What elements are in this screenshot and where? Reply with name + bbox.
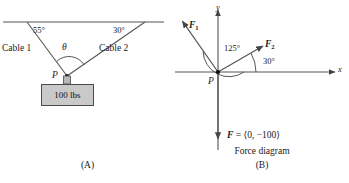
force-weight-value: = ⟨0, −100⟩ — [233, 130, 280, 140]
force-1-vector — [182, 21, 218, 72]
weight-label: 100 lbs — [54, 91, 80, 100]
origin-p-marker — [216, 70, 220, 74]
theta-label: θ — [62, 43, 67, 53]
force-1-subscript: 1 — [195, 24, 198, 31]
hanger-tab — [64, 76, 71, 84]
force-weight-label: F = ⟨0, −100⟩ — [227, 131, 280, 141]
cable-2-label: Cable 2 — [99, 44, 128, 54]
panel-b-caption: (B) — [175, 160, 349, 170]
figure-container: 55° 30° Cable 1 Cable 2 θ P 100 lbs (A) — [0, 0, 349, 183]
point-p-label: P — [52, 71, 58, 81]
angle-30-label: 30° — [263, 57, 275, 66]
weight-box: 100 lbs — [41, 84, 94, 106]
angle-30-arc — [251, 53, 256, 72]
panel-b-title: Force diagram — [175, 146, 349, 156]
angle-30-label: 30° — [113, 26, 125, 35]
force-2-label: F2 — [265, 40, 275, 50]
panel-a-caption: (A) — [0, 160, 175, 170]
origin-p-label: P — [208, 77, 214, 87]
cable-1-label: Cable 1 — [2, 44, 31, 54]
force-2-subscript: 2 — [271, 43, 274, 50]
angle-125-arc — [203, 51, 244, 76]
angle-55-label: 55° — [33, 26, 45, 35]
panel-b-force-diagram: y x P F1 F2 125° 30° F = ⟨0, −100⟩ Force… — [175, 0, 349, 183]
x-axis-label: x — [338, 65, 342, 74]
y-axis-label: y — [216, 3, 220, 12]
angle-125-label: 125° — [224, 44, 240, 53]
force-1-label: F1 — [189, 21, 199, 31]
panel-a-physical-setup: 55° 30° Cable 1 Cable 2 θ P 100 lbs (A) — [0, 0, 175, 183]
theta-arc — [57, 57, 85, 66]
